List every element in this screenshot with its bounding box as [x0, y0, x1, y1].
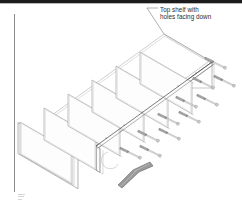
machine-screw — [158, 128, 180, 141]
shelf-right-end-panel — [96, 146, 103, 174]
callout-label-line1: Top shelf with — [160, 6, 199, 13]
assembly-diagram-canvas: Top shelf with holes facing down — [0, 0, 242, 207]
machine-screw — [119, 147, 141, 160]
allen-wrench-icon — [118, 162, 153, 188]
divider-panel-group — [18, 52, 194, 189]
machine-screw — [192, 77, 214, 90]
machine-screw — [196, 94, 218, 107]
machine-screw — [213, 75, 235, 88]
rotation-arc — [101, 152, 118, 169]
shelf-assembly-drawing — [0, 0, 242, 207]
page-footer-mark — [18, 194, 25, 199]
callout-label-line2: holes facing down — [160, 13, 211, 20]
machine-screw — [139, 145, 161, 158]
